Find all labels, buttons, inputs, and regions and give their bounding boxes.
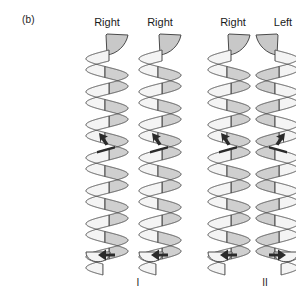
helix-artwork: [0, 0, 296, 304]
helix-II-b: [256, 34, 296, 275]
helix-I-b: [139, 34, 181, 275]
helix-I-a: [86, 34, 128, 275]
helix-II-a: [208, 34, 250, 275]
figure-panel-b: (b) Right Right Right Left I II: [0, 0, 296, 304]
